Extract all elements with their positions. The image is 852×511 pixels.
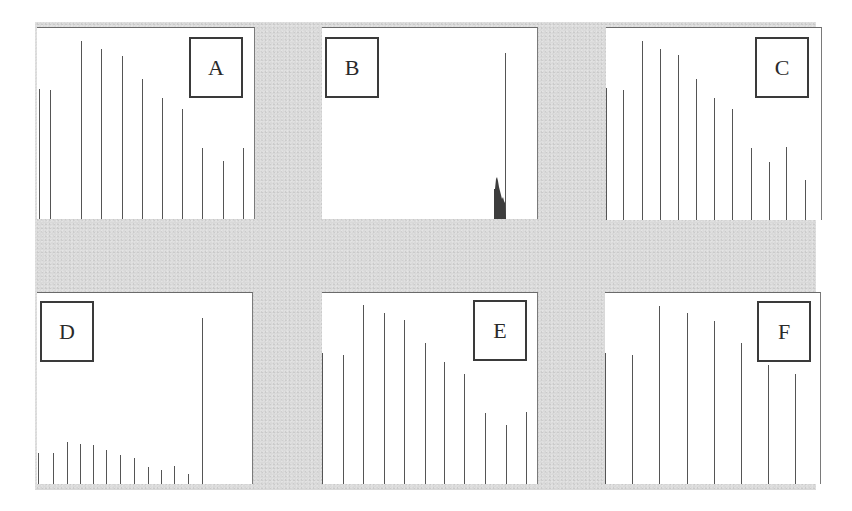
- bar: [202, 148, 203, 219]
- bar: [404, 320, 405, 484]
- bar: [795, 374, 796, 484]
- bar: [148, 467, 149, 484]
- bar: [714, 98, 715, 220]
- bar: [485, 413, 486, 484]
- bar: [322, 353, 323, 484]
- bar: [687, 313, 688, 484]
- bar: [606, 88, 607, 220]
- bar: [732, 109, 733, 220]
- bar: [805, 180, 806, 220]
- chart-panel-d: D: [37, 292, 253, 484]
- bar: [464, 374, 465, 484]
- chart-panel-a: A: [37, 27, 255, 219]
- bar: [632, 355, 633, 484]
- bar: [188, 474, 189, 484]
- bar: [659, 306, 660, 484]
- bar: [363, 305, 364, 484]
- bar: [120, 455, 121, 484]
- bar: [39, 89, 40, 219]
- bar: [678, 55, 679, 220]
- bar: [243, 148, 244, 219]
- bar: [101, 49, 102, 219]
- chart-panel-e: E: [322, 292, 538, 484]
- bar: [786, 147, 787, 220]
- bar: [106, 450, 107, 484]
- bar: [642, 41, 643, 220]
- bar: [174, 466, 175, 484]
- bar: [506, 425, 507, 484]
- bar: [343, 355, 344, 484]
- bar: [122, 56, 123, 219]
- bar: [623, 90, 624, 220]
- bar: [425, 343, 426, 484]
- bar: [182, 109, 183, 219]
- bar: [67, 442, 68, 484]
- bar: [384, 313, 385, 484]
- bar: [751, 148, 752, 220]
- bar: [162, 98, 163, 219]
- spike-cluster: [494, 177, 506, 219]
- bar: [93, 445, 94, 484]
- bar: [38, 453, 39, 484]
- bar: [223, 161, 224, 219]
- bar: [444, 362, 445, 484]
- bar: [769, 162, 770, 220]
- bar: [714, 321, 715, 484]
- chart-panel-f: F: [605, 292, 821, 484]
- bar: [605, 353, 606, 484]
- panel-label-b: B: [325, 37, 379, 98]
- bar: [50, 90, 51, 219]
- bar: [526, 412, 527, 484]
- panel-label-e: E: [473, 300, 527, 361]
- panel-label-a: A: [189, 37, 243, 98]
- bar: [134, 458, 135, 484]
- bar: [53, 453, 54, 484]
- bar: [660, 49, 661, 220]
- chart-panel-c: C: [606, 27, 822, 220]
- bar: [696, 79, 697, 220]
- panel-label-f: F: [757, 301, 811, 362]
- bar: [142, 79, 143, 219]
- bar: [161, 470, 162, 484]
- panel-label-d: D: [40, 301, 94, 362]
- bar: [80, 444, 81, 484]
- bar: [768, 365, 769, 484]
- bar: [741, 343, 742, 484]
- chart-panel-b: B: [322, 27, 538, 219]
- bar: [202, 318, 203, 484]
- panel-label-c: C: [755, 37, 809, 98]
- bar: [81, 41, 82, 219]
